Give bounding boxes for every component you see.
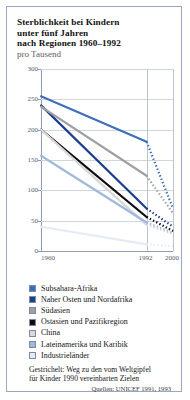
series-line-solid [41,130,147,225]
series-line-dashed [147,176,173,214]
y-axis-tick-label: 50 [31,217,38,224]
y-axis-tick-label: 250 [28,96,39,103]
chart-legend: Subsahara-AfrikaNaher Osten und Nordafri… [29,283,179,361]
legend-item[interactable]: Ostasien und Pazifikregion [29,317,179,328]
series-line-dashed [147,244,173,246]
title-line-2: unter fünf Jahren [17,28,177,39]
series-line-dashed [147,142,173,209]
series-lines [41,69,173,251]
legend-swatch [29,330,36,337]
title-line-3: nach Regionen 1960–1992 [17,38,177,49]
plot-canvas: 300250200150100500196019922000 [41,69,173,251]
legend-item[interactable]: China [29,328,179,339]
legend-swatch [29,319,36,326]
legend-item[interactable]: Lateinamerika und Karibik [29,339,179,350]
legend-swatch [29,285,36,292]
legend-item-label: Ostasien und Pazifikregion [41,318,128,326]
x-axis-tick-label: 2000 [165,255,179,262]
legend-item[interactable]: Südasien [29,305,179,316]
series-line-solid [41,227,147,245]
y-axis-tick-label: 200 [28,126,39,133]
legend-item[interactable]: Naher Osten und Nordafrika [29,294,179,305]
x-axis-tick-label: 1960 [41,255,55,262]
x-axis-line [41,251,173,252]
page-title: Sterblichkeit bei Kindern unter fünf Jah… [17,17,177,49]
chart-source: Quellen: UNICEF 1991, 1993 [92,385,172,392]
legend-swatch [29,341,36,348]
chart-note: Gestrichelt: Weg zu den vom Weltgipfel f… [29,365,177,383]
chart-card: Sterblichkeit bei Kindern unter fünf Jah… [6,6,182,392]
series-line-solid [41,105,147,208]
note-line-2: für Kinder 1990 vereinbarten Zielen [29,374,177,383]
legend-swatch [29,352,36,359]
x-axis-tick-label: 1992 [139,255,153,262]
note-line-1: Gestrichelt: Weg zu den vom Weltgipfel [29,365,177,374]
legend-swatch [29,296,36,303]
y-axis-tick-label: 0 [35,248,39,255]
gridline-x [173,69,174,251]
legend-item-label: Industrieländer [41,352,89,360]
legend-swatch [29,307,36,314]
series-line-solid [41,96,147,142]
legend-item-label: Südasien [41,307,70,315]
legend-item-label: Naher Osten und Nordafrika [41,296,132,304]
legend-item-label: Lateinamerika und Karibik [41,341,128,349]
y-axis-tick-label: 100 [28,187,39,194]
legend-item[interactable]: Industrieländer [29,350,179,361]
legend-item[interactable]: Subsahara-Afrika [29,283,179,294]
title-line-1: Sterblichkeit bei Kindern [17,17,177,28]
y-axis-tick-label: 300 [28,66,39,73]
legend-item-label: China [41,329,60,337]
y-axis-tick-label: 150 [28,157,39,164]
chart-subtitle: pro Tausend [17,49,61,59]
chart-plot-area: 300250200150100500196019922000 [17,65,173,265]
legend-item-label: Subsahara-Afrika [41,285,97,293]
